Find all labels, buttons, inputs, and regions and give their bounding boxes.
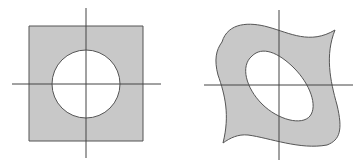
diagram-canvas bbox=[0, 0, 363, 168]
diagram-svg bbox=[0, 0, 363, 168]
left-panel bbox=[12, 8, 161, 158]
right-panel bbox=[204, 10, 353, 160]
